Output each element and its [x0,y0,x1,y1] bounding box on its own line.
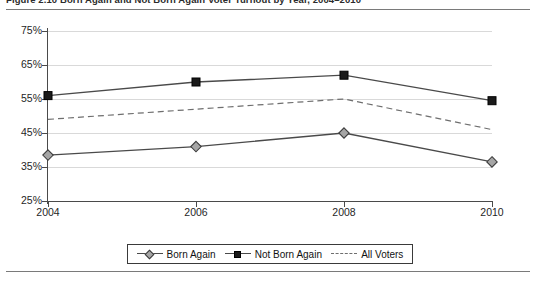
series-line [48,75,492,101]
figure-rule-bottom [6,271,530,272]
series-line [48,133,492,162]
chart-legend: Born Again Not Born Again All Voters [127,244,413,264]
data-point-marker [488,97,496,105]
data-point-marker [43,150,53,160]
line-dashed-icon [331,248,357,260]
legend-item-born-again[interactable]: Born Again [137,248,216,260]
figure-container: Figure 2.10 Born Again and Not Born Agai… [0,0,538,284]
series-line [48,99,492,130]
legend-label-not-born-again: Not Born Again [255,249,322,260]
data-point-marker [191,141,201,151]
data-point-marker [44,92,52,100]
data-point-marker [340,71,348,79]
legend-item-not-born-again[interactable]: Not Born Again [225,248,322,260]
legend-item-all-voters[interactable]: All Voters [331,248,403,260]
data-point-marker [192,78,200,86]
line-square-icon [225,248,251,260]
series-layer [0,0,538,284]
legend-label-born-again: Born Again [167,249,216,260]
data-point-marker [487,157,497,167]
data-point-marker [339,128,349,138]
legend-label-all-voters: All Voters [361,249,403,260]
line-diamond-icon [137,248,163,260]
